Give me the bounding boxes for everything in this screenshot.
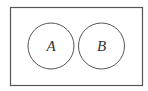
- set-b-label: B: [97, 38, 106, 54]
- venn-diagram: A B: [0, 0, 148, 91]
- set-a-label: A: [45, 38, 56, 54]
- universal-set-rectangle: [11, 8, 143, 86]
